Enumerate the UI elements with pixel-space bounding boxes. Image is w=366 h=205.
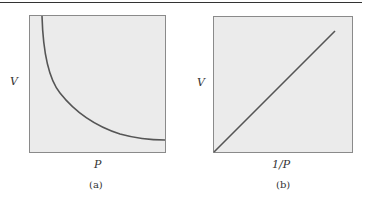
panel-b-plot (214, 17, 353, 153)
panel-b-caption: (b) (276, 180, 290, 190)
panel-a-frame (30, 16, 166, 153)
panel-b-ylabel: V (197, 77, 205, 88)
panel-a-plot (30, 16, 166, 153)
figure-canvas (0, 0, 366, 205)
panel-a-caption: (a) (89, 180, 103, 190)
panel-a-xlabel: P (94, 159, 101, 170)
panel-b-xlabel: 1/P (272, 159, 290, 170)
panel-a-ylabel: V (10, 76, 18, 87)
